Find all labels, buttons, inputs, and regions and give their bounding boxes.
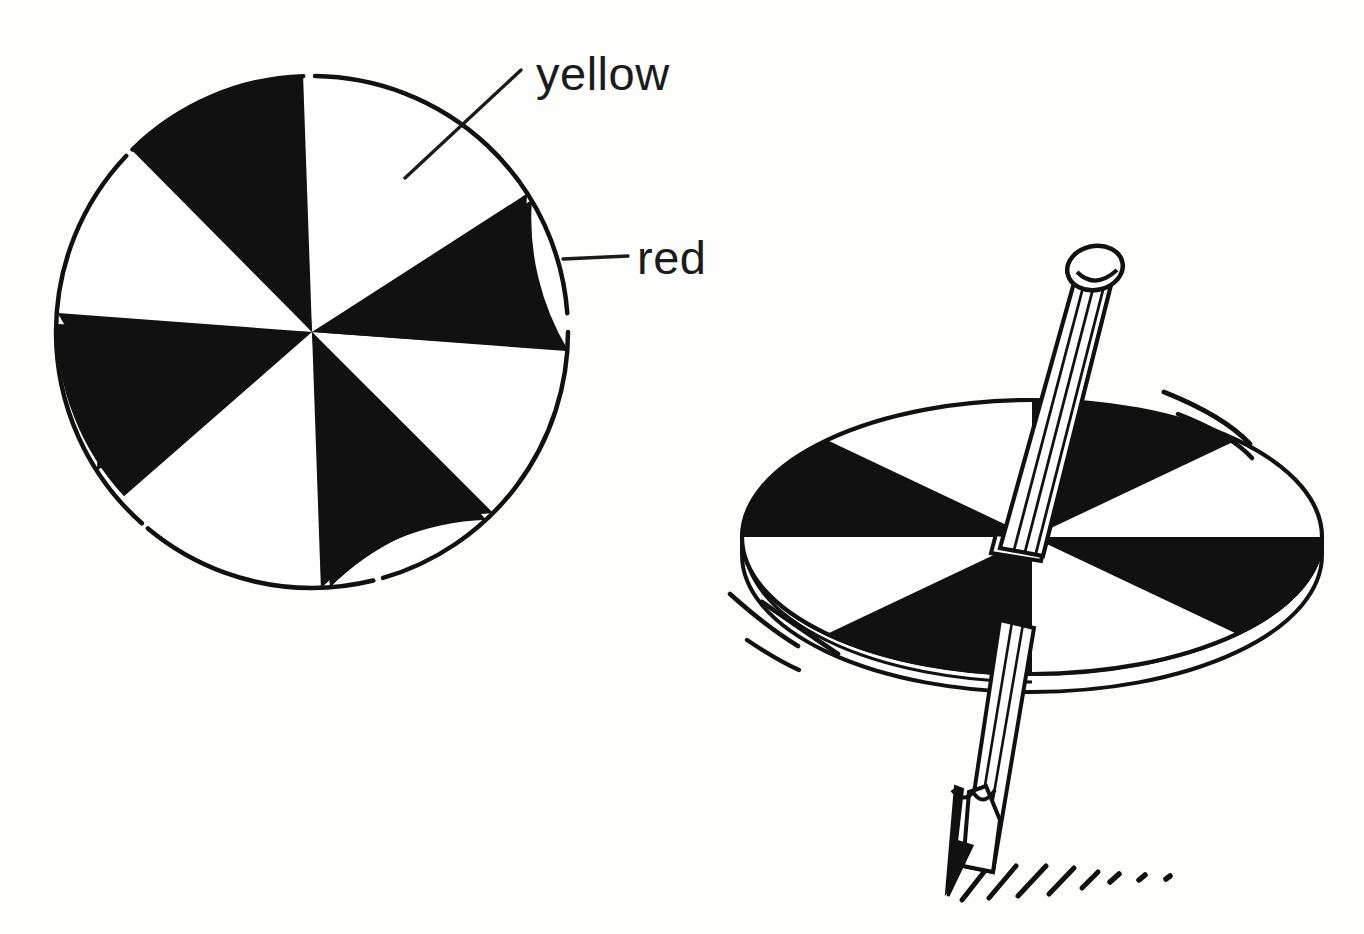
illustration-svg: yellow red bbox=[0, 0, 1364, 934]
flat-color-disk bbox=[56, 76, 568, 588]
figure-canvas: yellow red bbox=[0, 0, 1364, 934]
ground-hatch-dot-3 bbox=[1166, 876, 1170, 879]
ground-hatch-dot-2 bbox=[1139, 875, 1145, 880]
label-red: red bbox=[637, 231, 706, 284]
label-yellow: yellow bbox=[536, 47, 670, 100]
